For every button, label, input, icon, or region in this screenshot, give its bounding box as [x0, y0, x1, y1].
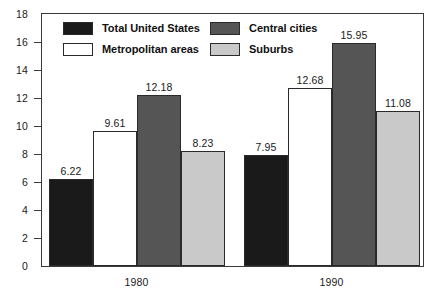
legend-entry: Suburbs [210, 43, 293, 56]
legend-label: Total United States [102, 23, 200, 34]
bar-value-label: 8.23 [181, 138, 225, 149]
legend-entry: Central cities [210, 22, 317, 35]
bar-chart: 181614121086420 6.229.6112.188.237.9512.… [0, 0, 439, 296]
bar [49, 179, 93, 266]
legend-swatch-white-swatch [63, 43, 93, 56]
bar-value-label: 6.22 [49, 166, 93, 177]
bar [244, 155, 288, 266]
chart-legend: Total United StatesCentral citiesMetropo… [63, 22, 323, 60]
bar-value-label: 12.18 [137, 82, 181, 93]
bar [93, 131, 137, 266]
x-axis-tick-label: 1980 [97, 277, 177, 288]
bar-value-label: 12.68 [288, 75, 332, 86]
legend-swatch-black-swatch [63, 22, 93, 35]
bar-value-label: 7.95 [244, 142, 288, 153]
legend-label: Metropolitan areas [102, 44, 199, 55]
bar-value-label: 9.61 [93, 118, 137, 129]
legend-entry: Metropolitan areas [63, 43, 199, 56]
legend-label: Central cities [249, 23, 317, 34]
legend-swatch-light-gray-swatch [210, 43, 240, 56]
bar [288, 88, 332, 266]
bar-value-label: 11.08 [376, 98, 420, 109]
legend-swatch-dark-gray-swatch [210, 22, 240, 35]
legend-label: Suburbs [249, 44, 293, 55]
bar-value-label: 15.95 [332, 30, 376, 41]
legend-entry: Total United States [63, 22, 200, 35]
bar [332, 43, 376, 266]
bar [181, 151, 225, 266]
x-axis-tick-label: 1990 [292, 277, 372, 288]
bar [376, 111, 420, 266]
bar [137, 95, 181, 266]
